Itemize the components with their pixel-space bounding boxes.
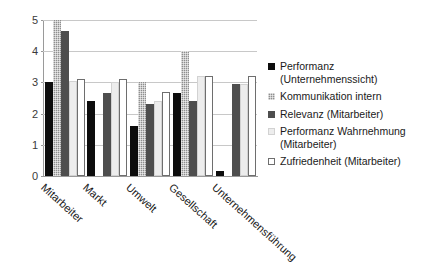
- y-tick-4: 4: [32, 46, 38, 56]
- y-tick-1: 1: [32, 140, 38, 150]
- bar-group: [43, 20, 86, 176]
- bar: [45, 82, 53, 176]
- legend-label-2-line1: Relevanz (Mitarbeiter): [280, 108, 383, 121]
- y-axis-tick-labels: 5 4 3 2 1 0: [18, 20, 38, 176]
- bar: [87, 101, 95, 176]
- legend-swatch-icon-2: [268, 111, 275, 118]
- category-label: Markt: [81, 181, 109, 208]
- legend-swatch-icon-0: [268, 63, 275, 70]
- legend-item-4: Zufriedenheit (Mitarbeiter): [268, 155, 425, 168]
- bar-group: [171, 20, 214, 176]
- bar: [69, 81, 77, 176]
- bar: [61, 31, 69, 176]
- bar: [119, 79, 127, 176]
- bar: [77, 79, 85, 176]
- y-tick-0: 0: [32, 171, 38, 181]
- bar: [240, 84, 248, 176]
- y-tick-mark-0: [41, 176, 44, 177]
- bar: [205, 76, 213, 176]
- legend-label-1-line1: Kommunikation intern: [280, 90, 382, 103]
- legend-label-2: Relevanz (Mitarbeiter): [280, 108, 383, 121]
- bar: [53, 20, 61, 176]
- legend-swatch-icon-3: [268, 128, 275, 135]
- legend-label-0: Performanz (Unternehmenssicht): [280, 60, 377, 85]
- bar-chart: 5 4 3 2 1 0 MitarbeiterMarktUmweltGesell…: [0, 0, 427, 264]
- legend-item-3: Performanz Wahrnehmung (Mitarbeiter): [268, 125, 425, 150]
- bar: [138, 82, 146, 176]
- legend-label-4-line1: Zufriedenheit (Mitarbeiter): [280, 155, 401, 168]
- bar: [181, 51, 189, 176]
- bar: [173, 93, 181, 176]
- bar: [197, 76, 205, 176]
- bar: [146, 104, 154, 176]
- legend-label-0-line2: (Unternehmenssicht): [280, 73, 377, 86]
- legend-label-0-line1: Performanz: [280, 60, 377, 73]
- bar: [103, 93, 111, 176]
- legend-label-3: Performanz Wahrnehmung (Mitarbeiter): [280, 125, 406, 150]
- legend-item-2: Relevanz (Mitarbeiter): [268, 108, 425, 121]
- bar: [189, 101, 197, 176]
- bar: [248, 76, 256, 176]
- category-label: Umwelt: [124, 181, 159, 214]
- y-tick-3: 3: [32, 77, 38, 87]
- category-label: Unternehmensführung: [210, 181, 299, 263]
- legend-item-0: Performanz (Unternehmenssicht): [268, 60, 425, 85]
- bar: [154, 101, 162, 176]
- category-label: Mitarbeiter: [38, 181, 85, 225]
- legend-label-1: Kommunikation intern: [280, 90, 382, 103]
- bar-group: [129, 20, 172, 176]
- legend-label-3-line1: Performanz Wahrnehmung: [280, 125, 406, 138]
- legend: Performanz (Unternehmenssicht) Kommunika…: [268, 60, 425, 173]
- legend-label-4: Zufriedenheit (Mitarbeiter): [280, 155, 401, 168]
- bar: [162, 92, 170, 176]
- y-tick-5: 5: [32, 15, 38, 25]
- bar: [216, 171, 224, 176]
- legend-swatch-icon-4: [268, 158, 275, 165]
- legend-swatch-icon-1: [268, 93, 275, 100]
- bar-group: [86, 20, 129, 176]
- legend-item-1: Kommunikation intern: [268, 90, 425, 103]
- bar: [130, 126, 138, 176]
- bar-group: [214, 20, 257, 176]
- x-axis-line: [43, 176, 258, 177]
- bar: [111, 82, 119, 176]
- y-tick-2: 2: [32, 109, 38, 119]
- bar: [232, 84, 240, 176]
- plot-area: [43, 20, 257, 176]
- legend-label-3-line2: (Mitarbeiter): [280, 138, 406, 151]
